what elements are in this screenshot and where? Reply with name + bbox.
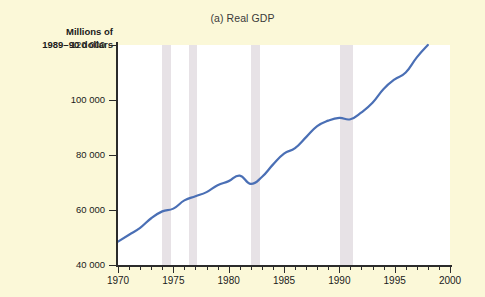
x-axis-minor-tick — [373, 266, 374, 270]
x-axis-major-tick — [284, 266, 285, 273]
x-axis-minor-tick — [129, 266, 130, 270]
x-axis-tick-label: 2000 — [427, 275, 473, 286]
x-axis-minor-tick — [428, 266, 429, 270]
x-axis-minor-tick — [195, 266, 196, 270]
x-axis-minor-tick — [207, 266, 208, 270]
x-axis-major-tick — [229, 266, 230, 273]
x-axis-major-tick — [118, 266, 119, 273]
x-axis-minor-tick — [328, 266, 329, 270]
y-axis-tick-label: 60 000 — [20, 204, 105, 215]
x-axis-minor-tick — [273, 266, 274, 270]
y-axis-tick-label: 80 000 — [20, 149, 105, 160]
x-axis-tick-label: 1975 — [150, 275, 196, 286]
x-axis-minor-tick — [406, 266, 407, 270]
x-axis-major-tick — [173, 266, 174, 273]
x-axis-minor-tick — [151, 266, 152, 270]
x-axis-major-tick — [339, 266, 340, 273]
figure-panel: (a) Real GDP Millions of 1989–90 dollars… — [0, 0, 485, 297]
chart-title: (a) Real GDP — [0, 12, 485, 24]
y-axis-tick-label: 120 000 — [20, 39, 105, 50]
x-axis-major-tick — [395, 266, 396, 273]
x-axis-minor-tick — [251, 266, 252, 270]
y-axis-tick — [109, 45, 118, 46]
x-axis-tick-label: 1995 — [372, 275, 418, 286]
y-axis-tick — [109, 265, 118, 266]
x-axis-minor-tick — [350, 266, 351, 270]
x-axis-minor-tick — [306, 266, 307, 270]
x-axis-tick-label: 1985 — [261, 275, 307, 286]
y-axis-tick — [109, 210, 118, 211]
plot-area — [118, 45, 450, 265]
x-axis-minor-tick — [317, 266, 318, 270]
x-axis-minor-tick — [439, 266, 440, 270]
y-axis-tick-label: 40 000 — [20, 259, 105, 270]
y-axis-title-line1: Millions of — [0, 26, 113, 39]
x-axis-major-tick — [450, 266, 451, 273]
x-axis-minor-tick — [417, 266, 418, 270]
y-axis-tick-label: 100 000 — [20, 94, 105, 105]
x-axis-tick-label: 1990 — [316, 275, 362, 286]
x-axis-minor-tick — [218, 266, 219, 270]
x-axis-minor-tick — [384, 266, 385, 270]
x-axis-minor-tick — [140, 266, 141, 270]
y-axis-tick — [109, 155, 118, 156]
x-axis-minor-tick — [361, 266, 362, 270]
x-axis-minor-tick — [240, 266, 241, 270]
x-axis-minor-tick — [162, 266, 163, 270]
x-axis-minor-tick — [295, 266, 296, 270]
x-axis-tick-label: 1970 — [95, 275, 141, 286]
gdp-line-path — [118, 45, 428, 242]
gdp-line-series — [118, 45, 450, 265]
x-axis-minor-tick — [262, 266, 263, 270]
x-axis-minor-tick — [184, 266, 185, 270]
x-axis-tick-label: 1980 — [206, 275, 252, 286]
y-axis-tick — [109, 100, 118, 101]
